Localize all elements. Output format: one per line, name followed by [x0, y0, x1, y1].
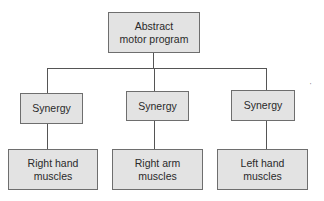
synergy-box-1: Synergy: [20, 93, 83, 124]
effector-box-right-arm: Right arm muscles: [112, 149, 203, 190]
connector-root-down: [153, 52, 154, 68]
root-label-line1: Abstract: [120, 20, 189, 33]
effector-label-line1: Right arm: [135, 157, 181, 170]
synergy-box-2: Synergy: [126, 91, 189, 121]
synergy-box-3: Synergy: [231, 90, 295, 121]
effector-label-line2: muscles: [241, 170, 285, 183]
effector-label-line1: Left hand: [241, 157, 285, 170]
synergy-label: Synergy: [32, 102, 71, 115]
connector-horizontal-bus: [47, 68, 267, 69]
connector-synergy-3-to-effector: [266, 121, 267, 149]
root-label-line2: motor program: [120, 33, 189, 46]
connector-synergy-1-to-effector: [47, 124, 48, 149]
effector-label-line1: Right hand: [28, 157, 79, 170]
connector-to-synergy-3: [266, 68, 267, 90]
connector-to-synergy-2: [154, 68, 155, 91]
connector-to-synergy-1: [47, 68, 48, 93]
stray-mark: ': [310, 82, 311, 88]
effector-label-line2: muscles: [28, 170, 79, 183]
synergy-label: Synergy: [138, 100, 177, 113]
effector-box-left-hand: Left hand muscles: [217, 149, 308, 190]
effector-box-right-hand: Right hand muscles: [8, 149, 98, 190]
synergy-label: Synergy: [244, 99, 283, 112]
effector-label-line2: muscles: [135, 170, 181, 183]
abstract-motor-program-box: Abstract motor program: [108, 12, 200, 53]
connector-synergy-2-to-effector: [154, 121, 155, 149]
